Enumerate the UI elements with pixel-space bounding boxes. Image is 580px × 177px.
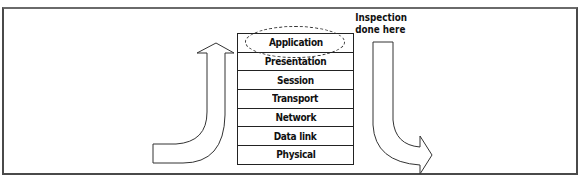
down-curved-arrow-icon xyxy=(373,42,432,174)
inspection-annotation: Inspection done here xyxy=(350,12,402,36)
layer-application: Application xyxy=(238,34,353,53)
layer-transport: Transport xyxy=(238,90,353,109)
up-arrow-icon xyxy=(153,43,234,163)
layer-presentation: Presentation xyxy=(238,53,353,72)
layer-network: Network xyxy=(238,109,353,128)
annotation-line-2: done here xyxy=(355,24,397,36)
osi-layer-stack: Application Presentation Session Transpo… xyxy=(237,33,354,165)
layer-physical: Physical xyxy=(238,146,353,165)
layer-data-link: Data link xyxy=(238,127,353,146)
layer-session: Session xyxy=(238,71,353,90)
